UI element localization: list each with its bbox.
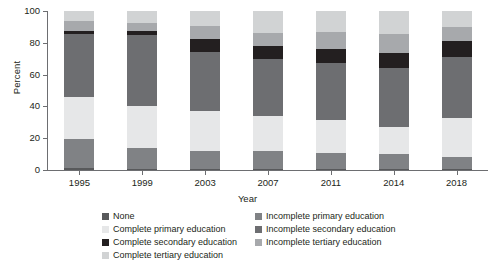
y-tick-mark [43, 75, 47, 76]
plot-area [48, 11, 488, 170]
bar-segment[interactable] [442, 157, 472, 169]
bar-segment[interactable] [442, 41, 472, 57]
bar-segment[interactable] [64, 168, 94, 170]
bar-segment[interactable] [379, 68, 409, 127]
bar-segment[interactable] [190, 26, 220, 39]
bar-segment[interactable] [253, 116, 283, 151]
bar-segment[interactable] [316, 153, 346, 170]
bar-segment[interactable] [190, 151, 220, 169]
bar-segment[interactable] [64, 97, 94, 139]
x-tick-label: 1999 [132, 177, 153, 188]
stacked-bar[interactable] [64, 11, 94, 170]
bar-segment[interactable] [253, 33, 283, 46]
bar-group[interactable] [316, 11, 346, 170]
legend-item[interactable]: Incomplete secondary education [255, 223, 396, 236]
bar-segment[interactable] [253, 151, 283, 169]
legend-swatch-icon [102, 252, 109, 259]
bar-segment[interactable] [379, 53, 409, 68]
bar-segment[interactable] [379, 11, 409, 34]
bar-segment[interactable] [379, 169, 409, 170]
y-tick-mark [43, 106, 47, 107]
y-tick-label: 80 [16, 38, 40, 48]
chart-legend: NoneIncomplete primary educationComplete… [102, 210, 442, 262]
bar-segment[interactable] [253, 11, 283, 33]
bar-segment[interactable] [379, 34, 409, 53]
bar-segment[interactable] [316, 120, 346, 153]
bar-segment[interactable] [127, 148, 157, 169]
bar-segment[interactable] [253, 169, 283, 170]
legend-item[interactable]: Complete secondary education [102, 236, 237, 249]
bar-segment[interactable] [316, 169, 346, 170]
legend-label: Complete tertiary education [113, 251, 223, 260]
bar-group[interactable] [379, 11, 409, 170]
stacked-bar[interactable] [253, 11, 283, 170]
bar-segment[interactable] [316, 49, 346, 63]
bar-segment[interactable] [442, 27, 472, 41]
bar-group[interactable] [127, 11, 157, 170]
bar-segment[interactable] [127, 106, 157, 147]
bar-segment[interactable] [190, 52, 220, 112]
legend-row: NoneIncomplete primary education [102, 210, 442, 223]
legend-item[interactable]: Incomplete primary education [255, 210, 384, 223]
bar-group[interactable] [442, 11, 472, 170]
stacked-bar[interactable] [190, 11, 220, 170]
bar-group[interactable] [253, 11, 283, 170]
bar-segment[interactable] [127, 35, 157, 107]
bar-segment[interactable] [64, 139, 94, 168]
bar-segment[interactable] [316, 32, 346, 49]
legend-row: Complete primary educationIncomplete sec… [102, 223, 442, 236]
x-tick-label: 2011 [321, 177, 341, 188]
bar-segment[interactable] [127, 11, 157, 23]
stacked-bar[interactable] [379, 11, 409, 170]
bar-segment[interactable] [190, 11, 220, 26]
y-tick-mark [43, 138, 47, 139]
bar-segment[interactable] [127, 169, 157, 170]
bar-segment[interactable] [442, 118, 472, 158]
x-tick-mark [331, 171, 332, 175]
stacked-bar[interactable] [316, 11, 346, 170]
bar-segment[interactable] [127, 23, 157, 31]
y-tick-mark [43, 43, 47, 44]
y-tick-label: 0 [16, 165, 40, 175]
legend-row: Complete tertiary education [102, 249, 442, 262]
y-tick-label: 20 [16, 133, 40, 143]
legend-label: None [113, 212, 135, 221]
bar-segment[interactable] [253, 46, 283, 59]
bar-segment[interactable] [379, 154, 409, 169]
bar-segment[interactable] [190, 169, 220, 170]
legend-item[interactable]: None [102, 210, 135, 223]
bar-segment[interactable] [190, 111, 220, 151]
bar-group[interactable] [64, 11, 94, 170]
x-tick-mark [268, 171, 269, 175]
legend-swatch-icon [102, 226, 109, 233]
bar-segment[interactable] [442, 11, 472, 27]
bar-segment[interactable] [379, 127, 409, 154]
legend-label: Complete primary education [113, 225, 226, 234]
legend-item[interactable]: Complete tertiary education [102, 249, 223, 262]
bar-segment[interactable] [127, 31, 157, 35]
bar-segment[interactable] [190, 39, 220, 52]
bar-segment[interactable] [64, 31, 94, 34]
legend-swatch-icon [255, 213, 262, 220]
bar-segment[interactable] [316, 11, 346, 32]
x-tick-label: 1995 [69, 177, 90, 188]
bar-segment[interactable] [64, 34, 94, 97]
bar-group[interactable] [190, 11, 220, 170]
bar-segment[interactable] [316, 63, 346, 119]
legend-row: Complete secondary educationIncomplete t… [102, 236, 442, 249]
y-tick-mark [43, 11, 47, 12]
x-tick-mark [457, 171, 458, 175]
stacked-bar-chart: Percent 020406080100 Year NoneIncomplete… [0, 0, 495, 277]
legend-item[interactable]: Incomplete tertiary education [255, 236, 382, 249]
bar-segment[interactable] [442, 57, 472, 117]
bar-segment[interactable] [64, 11, 94, 21]
legend-label: Complete secondary education [113, 238, 237, 247]
bar-segment[interactable] [442, 169, 472, 170]
stacked-bar[interactable] [127, 11, 157, 170]
stacked-bar[interactable] [442, 11, 472, 170]
x-tick-mark [79, 171, 80, 175]
bar-segment[interactable] [253, 59, 283, 116]
legend-label: Incomplete primary education [266, 212, 384, 221]
legend-item[interactable]: Complete primary education [102, 223, 226, 236]
bar-segment[interactable] [64, 21, 94, 31]
